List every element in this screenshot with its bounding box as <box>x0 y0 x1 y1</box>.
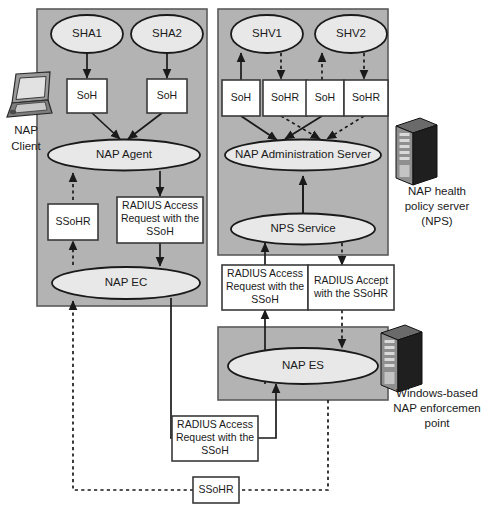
box-radius-accept-mid-label: RADIUS Accept <box>314 274 388 286</box>
box-radius-request-bottom-label: RADIUS Access <box>177 418 253 430</box>
svg-text:with the SSoHR: with the SSoHR <box>313 287 389 299</box>
enforcement-caption-line3: point <box>425 417 451 429</box>
box-sohr-1-label: SoHR <box>271 91 299 103</box>
edge-napec-to-bottom-radius <box>170 298 171 438</box>
box-soh-2-label: SoH <box>315 91 335 103</box>
diagram-canvas: SHA1 SHA2 SoH SoH NAP Agent SSoHR RADIUS… <box>0 0 486 509</box>
nps-caption-line3: (NPS) <box>421 215 452 227</box>
box-ssohr-bottom-label: SSoHR <box>198 483 233 495</box>
enforcement-server-icon <box>381 325 422 392</box>
node-sha2-label: SHA2 <box>152 27 182 39</box>
node-shv2-label: SHV2 <box>336 27 366 39</box>
box-radius-request-mid-label: RADIUS Access <box>227 267 303 279</box>
svg-text:Request with the: Request with the <box>121 212 199 224</box>
box-soh-1-label: SoH <box>231 91 251 103</box>
node-nap-es-label: NAP ES <box>282 359 324 371</box>
node-nps-service-label: NPS Service <box>270 222 335 234</box>
node-nap-ec-label: NAP EC <box>105 276 148 288</box>
client-caption-line1: NAP <box>14 124 38 136</box>
enforcement-caption-line1: Windows-based <box>396 387 478 399</box>
laptop-icon <box>7 72 52 117</box>
svg-text:Request with the: Request with the <box>176 431 254 443</box>
nap-architecture-diagram: SHA1 SHA2 SoH SoH NAP Agent SSoHR RADIUS… <box>0 0 486 509</box>
nps-caption-line1: NAP health <box>408 185 466 197</box>
nps-caption-line2: policy server <box>405 200 470 212</box>
box-radius-request-client-label: RADIUS Access <box>122 199 198 211</box>
nps-server-icon <box>396 118 437 185</box>
svg-text:SSoH: SSoH <box>146 225 173 237</box>
svg-text:Request with the: Request with the <box>226 280 304 292</box>
box-soh-right-label: SoH <box>157 89 177 101</box>
box-sohr-2-label: SoHR <box>352 91 380 103</box>
client-caption-line2: Client <box>11 140 41 152</box>
enforcement-caption-line2: NAP enforcemen <box>393 402 480 414</box>
box-ssohr-client-label: SSoHR <box>55 215 90 227</box>
node-nap-agent-label: NAP Agent <box>96 148 153 160</box>
node-sha1-label: SHA1 <box>72 27 102 39</box>
box-soh-left-label: SoH <box>77 89 97 101</box>
node-shv1-label: SHV1 <box>252 27 282 39</box>
node-nap-admin-server-label: NAP Administration Server <box>235 148 371 160</box>
svg-text:SSoH: SSoH <box>251 293 278 305</box>
svg-text:SSoH: SSoH <box>201 444 228 456</box>
